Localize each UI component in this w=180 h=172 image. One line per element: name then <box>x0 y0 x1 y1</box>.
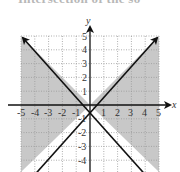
svg-text:-1: -1 <box>78 113 86 124</box>
svg-text:-4: -4 <box>78 155 86 166</box>
svg-text:-5: -5 <box>17 107 25 118</box>
svg-text:2: 2 <box>82 72 87 83</box>
svg-text:-3: -3 <box>44 107 52 118</box>
svg-text:3: 3 <box>128 107 133 118</box>
x-axis-label: x <box>171 99 177 110</box>
y-axis-label: y <box>85 15 91 26</box>
svg-text:3: 3 <box>82 58 87 69</box>
svg-text:4: 4 <box>142 107 147 118</box>
svg-text:4: 4 <box>82 44 87 55</box>
svg-text:2: 2 <box>115 107 120 118</box>
svg-text:5: 5 <box>82 31 87 42</box>
svg-text:-3: -3 <box>78 141 86 152</box>
svg-text:1: 1 <box>82 86 87 97</box>
svg-text:1: 1 <box>101 107 106 118</box>
svg-text:-4: -4 <box>31 107 39 118</box>
graph: x y -5 -4 -3 -2 -1 1 2 3 4 5 5 4 3 2 1 -… <box>0 0 180 172</box>
svg-text:-2: -2 <box>58 107 66 118</box>
svg-text:5: 5 <box>156 107 161 118</box>
svg-text:-2: -2 <box>78 127 86 138</box>
